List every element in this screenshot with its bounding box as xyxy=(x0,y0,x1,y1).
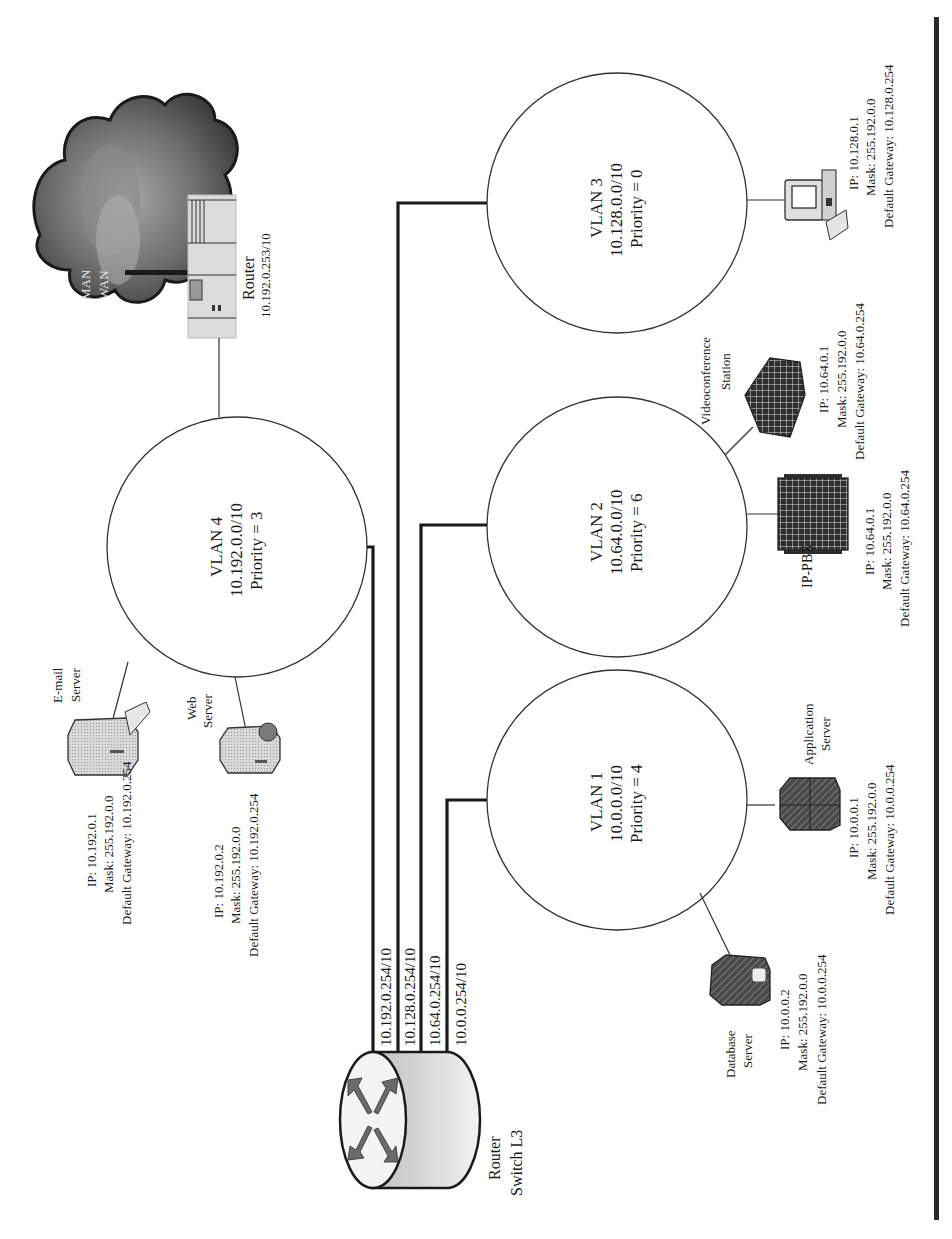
web-server-gateway: Default Gateway: 10.192.0.254 xyxy=(246,793,261,957)
workstation-mask: Mask: 255.192.0.0 xyxy=(863,99,878,197)
ip-pbx-label: IP-PBX xyxy=(800,544,815,588)
database-server-gateway: Default Gateway: 10.0.0.254 xyxy=(814,954,829,1105)
wan-label-man: MAN xyxy=(78,269,93,300)
email-server-mask: Mask: 255.192.0.0 xyxy=(101,796,116,894)
database-server-label-1: Database xyxy=(723,1030,738,1078)
ip-pbx-mask: Mask: 255.192.0.0 xyxy=(879,493,894,591)
edge-router-ip: 10.192.0.253/10 xyxy=(258,233,273,318)
wan-label-wan: WAN xyxy=(96,270,111,300)
vlan-1-subnet: 10.0.0.0/10 xyxy=(607,765,626,842)
vlan-1-circle: VLAN 1 10.0.0.0/10 Priority = 4 xyxy=(487,670,747,930)
vlan-3-name: VLAN 3 xyxy=(587,178,606,238)
email-server-ip: IP: 10.192.0.1 xyxy=(84,813,99,887)
router-switch-label-1: Router xyxy=(486,1136,503,1180)
videoconference-label-1: Videoconference xyxy=(698,337,713,425)
web-server-ip: IP: 10.192.0.2 xyxy=(211,844,226,918)
vlan-4-name: VLAN 4 xyxy=(207,517,226,577)
vlan-1-priority: Priority = 4 xyxy=(627,764,646,843)
vlan-3-circle: VLAN 3 10.128.0.0/10 Priority = 0 xyxy=(487,73,747,333)
web-server-label-1: Web xyxy=(184,697,199,721)
web-server-label-2: Server xyxy=(200,693,215,728)
vlan-4-subnet: 10.192.0.0/10 xyxy=(227,503,246,597)
application-server-label-2: Server xyxy=(818,716,833,751)
link-database-server xyxy=(700,893,730,955)
workstation-gateway: Default Gateway: 10.128.0.254 xyxy=(881,64,896,228)
iface-label-vlan2: 10.64.0.254/10 xyxy=(427,956,443,1046)
videoconference-station-icon xyxy=(745,358,805,437)
vlan-2-circle: VLAN 2 10.64.0.0/10 Priority = 6 xyxy=(487,397,747,657)
vlan-3-subnet: 10.128.0.0/10 xyxy=(607,163,626,257)
application-server-ip: IP: 10.0.0.1 xyxy=(846,797,861,858)
workstation-icon xyxy=(785,170,848,240)
ip-pbx-ip: IP: 10.64.0.1 xyxy=(862,508,877,575)
email-server-label-2: Server xyxy=(68,667,83,702)
ip-pbx-icon xyxy=(778,474,848,554)
application-server-label-1: Application xyxy=(801,703,816,765)
web-server-icon xyxy=(220,723,280,773)
vlan-2-name: VLAN 2 xyxy=(587,502,606,562)
email-server-label-1: E-mail xyxy=(50,667,65,703)
videoconference-mask: Mask: 255.192.0.0 xyxy=(834,331,849,429)
trunk-vlan4 xyxy=(367,547,373,1103)
router-switch-l3-icon xyxy=(340,1052,480,1188)
vlan-4-priority: Priority = 3 xyxy=(247,511,266,590)
workstation-ip: IP: 10.128.0.1 xyxy=(846,116,861,190)
iface-label-vlan4: 10.192.0.254/10 xyxy=(378,948,394,1046)
wan-link xyxy=(125,270,195,275)
vlan-3-priority: Priority = 0 xyxy=(627,169,646,248)
application-server-gateway: Default Gateway: 10.0.0.254 xyxy=(882,764,897,915)
videoconference-gateway: Default Gateway: 10.64.0.254 xyxy=(852,302,867,460)
iface-label-vlan1: 10.0.0.254/10 xyxy=(453,963,469,1046)
database-server-icon xyxy=(710,955,770,1005)
page-border-bar xyxy=(934,17,939,1220)
email-server-icon xyxy=(68,702,150,775)
web-server-mask: Mask: 255.192.0.0 xyxy=(228,827,243,925)
vlan-1-name: VLAN 1 xyxy=(587,772,606,832)
application-server-mask: Mask: 255.192.0.0 xyxy=(864,783,879,881)
network-diagram: MAN WAN Router 10.192.0.253/10 VLAN 4 10… xyxy=(0,0,952,1239)
application-server-icon xyxy=(780,778,840,830)
iface-label-vlan3: 10.128.0.254/10 xyxy=(402,948,418,1046)
videoconference-ip: IP: 10.64.0.1 xyxy=(816,346,831,413)
ip-pbx-gateway: Default Gateway: 10.64.0.254 xyxy=(897,469,912,627)
database-server-label-2: Server xyxy=(740,1033,755,1068)
link-videoconference xyxy=(725,427,753,455)
videoconference-label-2: Station xyxy=(718,353,733,390)
router-switch-label-2: Switch L3 xyxy=(508,1130,525,1196)
vlan-2-priority: Priority = 6 xyxy=(627,493,646,572)
vlan-2-subnet: 10.64.0.0/10 xyxy=(607,490,626,575)
database-server-mask: Mask: 255.192.0.0 xyxy=(795,974,810,1072)
vlan-4-circle: VLAN 4 10.192.0.0/10 Priority = 3 xyxy=(107,417,367,677)
edge-router-icon xyxy=(188,195,236,338)
edge-router-label: Router xyxy=(240,256,257,300)
email-server-gateway: Default Gateway: 10.192.0.254 xyxy=(119,761,134,925)
database-server-ip: IP: 10.0.0.2 xyxy=(777,989,792,1050)
